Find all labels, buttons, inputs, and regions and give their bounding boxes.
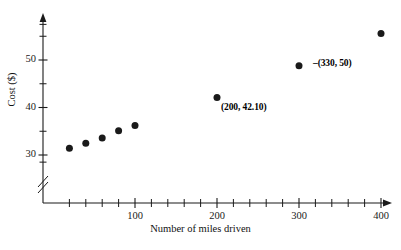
y-tick-label: 40 [9, 102, 36, 113]
x-tick-label: 200 [197, 211, 237, 222]
x-axis-title: Number of miles driven [0, 223, 401, 234]
annotation-label: (330, 50) [318, 58, 352, 68]
data-point [132, 122, 139, 129]
x-tick-label: 400 [361, 211, 401, 222]
y-axis-arrowhead [40, 13, 47, 22]
y-axis-title: Cost ($) [6, 55, 17, 125]
annotation-point-330: –(330, 50) [313, 58, 352, 68]
y-tick-label: 50 [9, 54, 36, 65]
data-point [214, 94, 221, 101]
x-tick-label: 300 [279, 211, 319, 222]
data-point [99, 134, 106, 141]
data-point [82, 140, 89, 147]
data-point [115, 127, 122, 134]
y-tick-label: 30 [9, 149, 36, 160]
x-tick-label: 100 [115, 211, 155, 222]
data-point [296, 62, 303, 69]
data-point [66, 145, 73, 152]
scatter-plot-figure: Cost ($) Number of miles driven 30405010… [0, 0, 401, 250]
annotation-point-200: (200, 42.10) [221, 102, 267, 112]
data-point [378, 30, 385, 37]
x-axis-arrowhead [383, 200, 392, 207]
